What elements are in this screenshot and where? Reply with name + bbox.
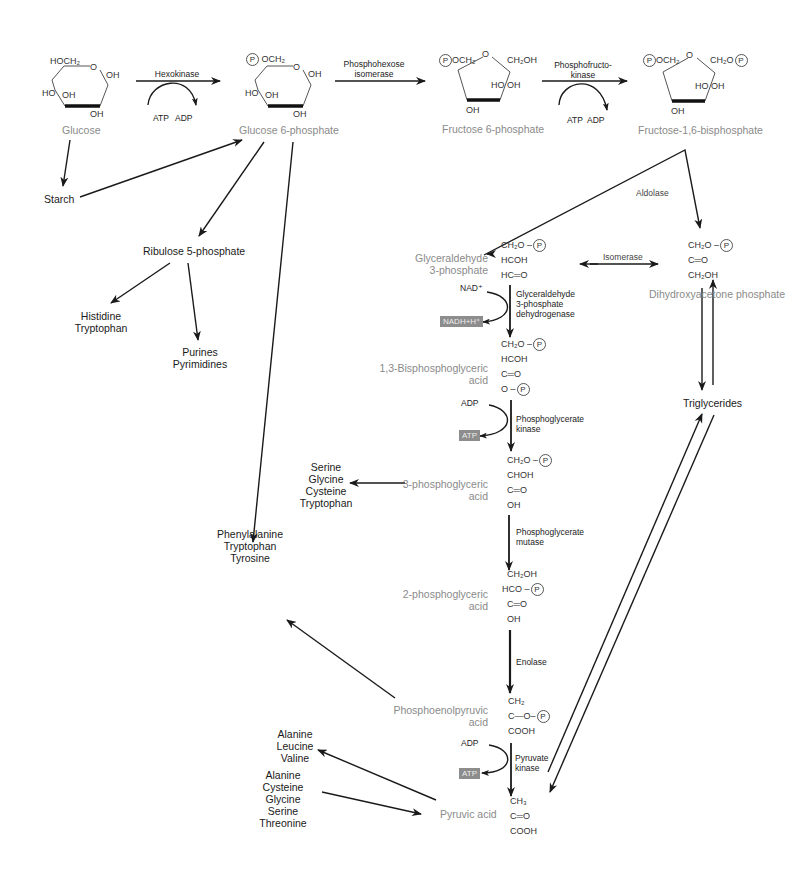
enz-line: Glyceraldehyde <box>516 289 575 299</box>
enolase-label: Enolase <box>516 657 547 667</box>
pk-cofactor-arc <box>482 745 508 773</box>
aromatic-aa-label: PhenylalanineTryptophanTyrosine <box>217 528 283 564</box>
struct-line: CH₃ <box>510 794 537 809</box>
phi-line-2: isomerase <box>344 69 405 79</box>
branch-line: Histidine <box>75 310 128 322</box>
serine-group-label: SerineGlycineCysteineTryptophan <box>300 461 353 509</box>
glucose6p-ring <box>255 66 311 106</box>
g6p-oh-bottom: OH <box>293 107 307 122</box>
struct-text: CH₂O – <box>688 240 719 250</box>
pyruvate-to-triglycerides-arrow <box>548 414 702 772</box>
struct-line: C═O <box>502 597 544 612</box>
pep-to-aromatic-arrow <box>287 620 395 698</box>
f16bp-ch2o: CH₂O <box>710 55 734 65</box>
pfk-line-2: kinase <box>554 70 612 80</box>
label-line: 2-phosphoglyceric <box>403 588 488 600</box>
struct-line: HC═O <box>501 268 546 283</box>
pk-adp: ADP <box>461 738 478 748</box>
f6p-ho: HO <box>491 78 505 93</box>
branch-line: Glycine <box>300 473 353 485</box>
enz-line: mutase <box>516 537 584 547</box>
g3p-label: Glyceraldehyde3-phosphate <box>415 252 488 276</box>
branch-line: Pyrimidines <box>173 358 227 370</box>
g6p-ho-left: HO <box>245 86 259 101</box>
phosphate-icon: P <box>246 53 259 66</box>
histidine-tryptophan-label: HistidineTryptophan <box>75 310 128 334</box>
enz-line: kinase <box>516 424 584 434</box>
pyruvate-label: Pyruvic acid <box>440 808 497 820</box>
branch-line: Threonine <box>259 817 306 829</box>
triglycerides-label: Triglycerides <box>683 397 742 409</box>
hexokinase-cofactor-arc <box>148 83 196 105</box>
branch-line: Cysteine <box>259 781 306 793</box>
f16bp-left: POCH₂ <box>642 53 680 68</box>
phosphate-icon: P <box>643 54 656 67</box>
pgk-atp-badge: ATP <box>459 430 480 441</box>
struct-line: C═O <box>507 483 552 498</box>
phosphate-icon: P <box>720 239 733 252</box>
f6p-ring-o: O <box>482 47 489 62</box>
g6p-to-aromatic-arrow <box>253 142 293 542</box>
branch-line: Tryptophan <box>217 540 283 552</box>
phosphate-icon: P <box>533 338 546 351</box>
glucose-ho-left: HO <box>42 86 56 101</box>
pgm-label: Phosphoglyceratemutase <box>516 527 584 547</box>
enz-line: kinase <box>515 763 549 773</box>
branch-line: Glycine <box>259 793 306 805</box>
glucose-oh-right: OH <box>106 68 120 83</box>
phosphate-icon: P <box>439 54 452 67</box>
struct-line: COOH <box>508 724 550 739</box>
enz-line: Phosphoglycerate <box>516 527 584 537</box>
branch-line: Purines <box>173 346 227 358</box>
f16bp-ho: HO <box>695 79 709 94</box>
glucose-to-starch-arrow <box>63 140 70 186</box>
ribulose-to-purines-arrow <box>188 263 198 340</box>
nad-label: NAD⁺ <box>460 283 483 293</box>
label-line: acid <box>403 490 488 502</box>
pg3-label: 3-phosphoglycericacid <box>403 478 488 502</box>
struct-line: HCO –P <box>502 582 544 597</box>
aminoacids-to-pyruvate-arrow <box>322 792 421 814</box>
starch-label: Starch <box>44 193 74 205</box>
struct-line: OH <box>502 612 544 627</box>
phosphate-icon: P <box>517 383 530 396</box>
label-line: 1,3-Bisphosphoglyceric <box>379 362 488 374</box>
glucose6p-label: Glucose 6-phosphate <box>239 124 339 136</box>
f16bp-ring-o: O <box>686 48 693 63</box>
label-line: Glyceraldehyde <box>415 252 488 264</box>
starch-to-g6p-arrow <box>80 140 242 197</box>
g3pdh-label: Glyceraldehyde3-phosphatedehydrogenase <box>516 289 575 320</box>
struct-line: HCOH <box>501 253 546 268</box>
struct-text: CH₂O – <box>501 240 532 250</box>
struct-line: HCOH <box>501 352 546 367</box>
phosphate-icon: P <box>539 454 552 467</box>
glucose-hoch2: HOCH₂ <box>50 54 80 69</box>
branch-line: Serine <box>259 805 306 817</box>
fructose16bp-label: Fructose-1,6-bisphosphate <box>638 124 763 136</box>
branch-line: Valine <box>277 752 314 764</box>
pg3-structure: CH₂O –PCHOHC═OOH <box>507 453 552 513</box>
pep-label: Phosphoenolpyruvicacid <box>393 704 488 728</box>
phosphate-icon: P <box>533 239 546 252</box>
bpg13-structure: CH₂O –PHCOHC═OO –P <box>501 337 546 397</box>
g3p-structure: CH₂O –PHCOHHC═O <box>501 238 546 283</box>
branch-line: Alanine <box>277 728 314 740</box>
struct-line: CHOH <box>507 468 552 483</box>
glucose-ring-o: O <box>90 60 97 75</box>
pk-atp-badge: ATP <box>459 768 480 779</box>
dhap-label: Dihydroxyacetone phosphate <box>649 288 785 300</box>
f16bp-oh-bottom: OH <box>671 104 685 119</box>
hexokinase-label: Hexokinase <box>155 69 199 79</box>
phosphate-icon: P <box>537 710 550 723</box>
g6p-to-ribulose-arrow <box>199 142 264 236</box>
g6p-och2: OCH₂ <box>262 54 286 64</box>
label-line: 3-phosphoglyceric <box>403 478 488 490</box>
isomerase-label: Isomerase <box>603 252 643 262</box>
struct-line: CH₂OH <box>688 268 733 283</box>
fructose6p-label: Fructose 6-phosphate <box>442 123 544 135</box>
pyruvate-to-alanine-arrow <box>318 750 436 800</box>
bpg13-label: 1,3-Bisphosphoglycericacid <box>379 362 488 386</box>
struct-line: OH <box>507 498 552 513</box>
label-line: acid <box>393 716 488 728</box>
branch-line: Serine <box>300 461 353 473</box>
